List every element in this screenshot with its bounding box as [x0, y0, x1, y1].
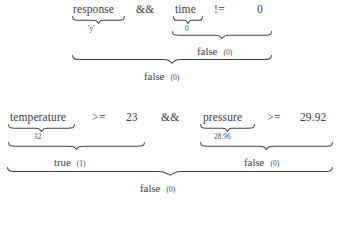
token-and-operator-2: && [161, 112, 180, 124]
result-numeric: (0) [166, 185, 175, 194]
brace-temperature [8, 124, 75, 132]
result-value: false [144, 70, 164, 82]
brace-time-comparison [172, 31, 272, 39]
token-zero-literal: 0 [257, 4, 263, 16]
result-numeric: (0) [170, 73, 179, 82]
brace-pressure [200, 124, 255, 132]
result-expression-1: false (0) [144, 67, 179, 83]
expression-trace-sheet: response && time != 0 'y' 0 [0, 0, 339, 227]
result-value: false [140, 182, 160, 194]
brace-expression-1 [72, 55, 272, 64]
token-response: response [73, 4, 114, 16]
result-expression-2: false (0) [140, 179, 175, 195]
token-ge-operator-1: >= [92, 112, 106, 124]
annotation-response-value: 'y' [88, 26, 94, 33]
brace-pressure-comparison [200, 142, 333, 150]
token-temperature: temperature [10, 112, 66, 124]
token-ge-operator-2: >= [267, 112, 281, 124]
brace-time [173, 16, 203, 24]
token-pressure: pressure [203, 112, 242, 124]
brace-temperature-comparison [8, 142, 145, 150]
token-29-92-literal: 29.92 [300, 112, 326, 124]
token-not-equal-operator: != [214, 4, 225, 16]
brace-response [72, 16, 125, 24]
annotation-pressure-value: 28.96 [214, 134, 231, 141]
annotation-temperature-value: 32 [34, 134, 41, 141]
token-and-operator-1: && [136, 4, 155, 16]
token-time: time [175, 4, 196, 16]
brace-expression-2 [7, 167, 333, 176]
token-23-literal: 23 [126, 112, 138, 124]
